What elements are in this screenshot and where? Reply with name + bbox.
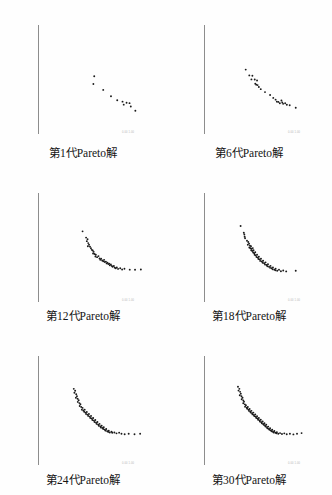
datapoint <box>245 69 247 71</box>
datapoint <box>260 258 262 260</box>
datapoint-group <box>237 386 303 436</box>
datapoint <box>243 232 245 234</box>
datapoint <box>265 424 267 426</box>
datapoint <box>267 263 269 265</box>
datapoint <box>237 386 239 388</box>
datapoint <box>272 97 274 99</box>
datapoint <box>86 240 88 242</box>
datapoint <box>284 102 286 104</box>
datapoint <box>264 91 266 93</box>
datapoint <box>272 268 274 270</box>
datapoint <box>130 106 132 108</box>
pareto-panel-gen-24: 0.00 1.00第24代Pareto解 <box>0 331 166 495</box>
datapoint <box>75 393 77 395</box>
datapoint <box>84 409 86 411</box>
datapoint <box>113 265 115 267</box>
datapoint <box>267 426 269 428</box>
datapoint <box>116 99 118 101</box>
datapoint <box>269 94 271 96</box>
datapoint <box>140 269 142 271</box>
datapoint <box>282 270 284 272</box>
datapoint <box>88 413 90 415</box>
scatter-plot-gen-24: 0.00 1.00 <box>0 331 166 465</box>
datapoint <box>76 395 78 397</box>
datapoint <box>273 432 275 434</box>
datapoint <box>110 95 112 97</box>
datapoint <box>86 411 88 413</box>
datapoint <box>262 421 264 423</box>
pareto-panel-gen-1: 0.00 1.00第1代Pareto解 <box>0 0 166 168</box>
pareto-panel-gen-12: 0.00 1.00第12代Pareto解 <box>0 168 166 331</box>
datapoint <box>249 408 251 410</box>
datapoint <box>74 390 76 392</box>
datapoint <box>90 247 92 249</box>
datapoint <box>283 432 285 434</box>
datapoint <box>123 104 125 106</box>
datapoint <box>252 412 254 414</box>
datapoint <box>95 254 97 256</box>
datapoint <box>129 102 131 104</box>
datapoint <box>262 260 264 262</box>
datapoint <box>92 83 94 85</box>
pareto-panel-gen-6: 0.00 1.00第6代Pareto解 <box>166 0 332 168</box>
datapoint <box>116 266 118 268</box>
datapoint <box>121 433 123 435</box>
datapoint <box>128 433 130 435</box>
datapoint <box>100 258 102 260</box>
panel-caption-gen-12: 第12代Pareto解 <box>0 307 166 323</box>
datapoint <box>105 430 107 432</box>
datapoint <box>103 426 105 428</box>
datapoint <box>82 407 84 409</box>
datapoint <box>286 104 288 106</box>
datapoint <box>244 236 246 238</box>
datapoint <box>258 86 260 88</box>
datapoint <box>73 392 75 394</box>
datapoint <box>276 432 278 434</box>
datapoint <box>285 270 287 272</box>
datapoint <box>111 432 113 434</box>
datapoint <box>301 432 303 434</box>
datapoint <box>139 433 141 435</box>
datapoint <box>277 433 279 435</box>
datapoint <box>253 249 255 251</box>
datapoint <box>260 419 262 421</box>
axis-micro-tick-label: 0.00 1.00 <box>288 130 301 134</box>
datapoint <box>295 107 297 109</box>
datapoint <box>239 394 241 396</box>
datapoint <box>116 432 118 434</box>
datapoint <box>245 404 247 406</box>
datapoint <box>89 246 91 248</box>
pareto-panel-gen-18: 0.00 1.00第18代Pareto解 <box>166 168 332 331</box>
datapoint <box>280 100 282 102</box>
datapoint <box>121 269 123 271</box>
datapoint-group <box>92 75 136 111</box>
datapoint <box>265 261 267 263</box>
datapoint <box>87 242 89 244</box>
datapoint <box>247 241 249 243</box>
scatter-plot-gen-6: 0.00 1.00 <box>166 0 332 134</box>
datapoint <box>75 397 77 399</box>
datapoint <box>102 89 104 91</box>
datapoint <box>123 268 125 270</box>
datapoint <box>272 266 274 268</box>
datapoint <box>282 103 284 105</box>
datapoint <box>274 269 276 271</box>
axis-micro-tick-label: 0.00 1.00 <box>288 298 301 302</box>
panel-caption-gen-24: 第24代Pareto解 <box>0 471 166 487</box>
datapoint <box>280 270 282 272</box>
datapoint <box>250 410 252 412</box>
datapoint <box>109 432 111 434</box>
datapoint <box>101 425 103 427</box>
datapoint <box>244 406 246 408</box>
datapoint <box>279 432 281 434</box>
scatter-plot-gen-18: 0.00 1.00 <box>166 168 332 302</box>
datapoint <box>257 84 259 86</box>
datapoint <box>105 261 107 263</box>
datapoint <box>258 256 260 258</box>
datapoint <box>117 268 119 270</box>
datapoint <box>103 259 105 261</box>
datapoint <box>99 423 101 425</box>
pareto-generation-figure-grid: 0.00 1.00第1代Pareto解0.00 1.00第6代Pareto解0.… <box>0 0 332 495</box>
datapoint <box>124 433 126 435</box>
datapoint <box>248 74 250 76</box>
